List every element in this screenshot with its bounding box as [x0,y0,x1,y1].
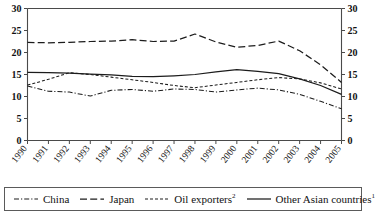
x-tick-label: 1992 [51,143,71,164]
legend-swatch-japan [80,194,104,204]
legend-label-oil-exporters-text: Oil exporters [174,193,232,205]
x-tick-label: 2003 [282,143,302,164]
legend-item-japan[interactable]: Japan [80,194,134,205]
x-tick-label: 1995 [114,143,134,164]
y-tick-label-left: 25 [12,25,22,36]
x-tick-label: 1990 [9,143,29,164]
legend-item-oil-exporters[interactable]: Oil exporters2 [145,193,235,205]
legend-swatch-oil-exporters [145,194,169,204]
legend-label-china: China [43,194,69,205]
series-line-china [28,86,342,109]
x-tick-label: 1991 [30,143,50,164]
y-tick-label-right: 10 [348,91,358,102]
y-tick-label-left: 15 [12,69,22,80]
y-tick-label-left: 30 [12,3,22,14]
x-tick-label: 2004 [303,143,323,164]
x-tick-label: 1996 [135,143,155,164]
legend-label-other-asian-countries-text: Other Asian countries [276,193,372,205]
x-tick-label: 2001 [240,143,260,164]
series-line-other-asian-countries [28,70,342,95]
legend-item-china[interactable]: China [14,194,69,205]
legend-footnote-other-asian-countries: 1 [372,192,375,200]
plot-frame [28,9,342,141]
y-tick-label-left: 10 [12,91,22,102]
y-tick-label-right: 15 [348,69,358,80]
legend-item-other-asian-countries[interactable]: Other Asian countries1 [247,193,375,205]
data-series-group [28,34,342,109]
y-tick-label-right: 0 [348,135,353,146]
legend-label-oil-exporters: Oil exporters2 [174,193,235,205]
y-axis-right-labels: 051015202530 [348,3,358,146]
legend-swatch-other-asian-countries [247,194,271,204]
x-axis-labels: 1990199119921993199419951996199719981999… [9,143,343,164]
legend-label-japan: Japan [109,194,134,205]
chart-legend: China Japan Oil exporters2 Other [4,187,362,211]
x-tick-label: 1994 [93,143,113,164]
x-tick-label: 1998 [177,143,197,164]
legend-label-other-asian-countries: Other Asian countries1 [276,193,375,205]
y-tick-label-right: 30 [348,3,358,14]
legend-label-japan-text: Japan [109,193,134,205]
x-tick-label: 2000 [219,143,239,164]
y-tick-label-left: 20 [12,47,22,58]
x-tick-label: 2002 [261,143,281,164]
y-tick-label-right: 25 [348,25,358,36]
x-tick-label: 1993 [72,143,92,164]
y-axis-left-labels: 051015202530 [12,3,22,146]
legend-label-china-text: China [43,193,69,205]
x-tick-label: 2005 [323,143,343,164]
y-tick-label-right: 5 [348,113,353,124]
y-tick-label-right: 20 [348,47,358,58]
legend-footnote-oil-exporters: 2 [232,192,236,200]
y-tick-label-left: 5 [17,113,22,124]
legend-swatch-china [14,194,38,204]
x-tick-label: 1999 [198,143,218,164]
x-tick-label: 1997 [156,143,176,164]
